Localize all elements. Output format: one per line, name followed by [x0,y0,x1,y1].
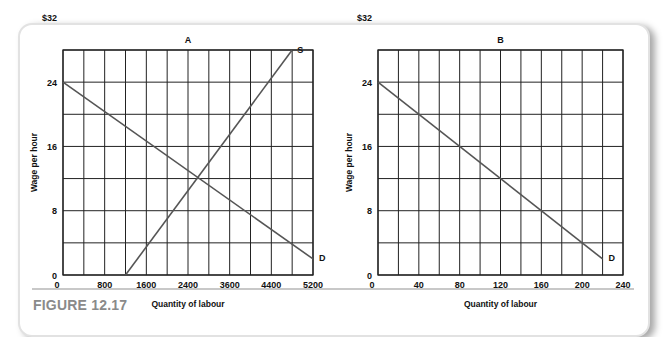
y-tick-label: 24 [362,78,372,88]
figure-caption: FIGURE 12.17 [33,297,127,313]
y-axis-label: Wage per hour [29,132,39,192]
chart-title: A [185,35,192,45]
caption-divider [32,288,634,290]
curve-d [378,82,603,259]
chart-title: B [497,35,504,45]
y-axis-label: Wage per hour [344,132,354,192]
curve-label: S [297,45,303,55]
curve-label: D [609,253,616,263]
y-tick-label: 0 [52,271,57,281]
curve-label: D [319,253,326,263]
y-tick-label: $32 [357,13,372,23]
y-tick-label: 0 [367,271,372,281]
y-tick-label: 16 [362,142,372,152]
y-tick-label: 8 [367,206,372,216]
chart-a: A081624$32080016002400360044005200Quanti… [29,13,326,309]
x-axis-label: Quantity of labour [464,299,538,309]
chart-b: B081624$3204080120160200240Quantity of l… [344,13,631,309]
y-tick-label: 16 [47,142,57,152]
y-tick-label: $32 [42,13,57,23]
y-tick-label: 24 [47,78,57,88]
x-axis-label: Quantity of labour [151,299,225,309]
y-tick-label: 8 [52,206,57,216]
